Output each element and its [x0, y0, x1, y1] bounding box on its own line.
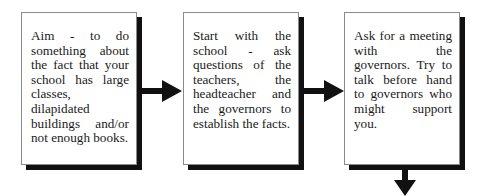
- arrow-right-icon: [302, 79, 346, 103]
- step-text-1: Aim - to do something about the fact tha…: [31, 29, 129, 146]
- arrow-down-icon: [393, 170, 417, 196]
- arrow-right-icon: [140, 79, 184, 103]
- step-box-2: Start with the school - ask questions of…: [183, 12, 299, 165]
- step-text-2: Start with the school - ask questions of…: [193, 29, 291, 131]
- step-box-1: Aim - to do something about the fact tha…: [21, 12, 137, 165]
- step-box-3: Ask for a meeting with the governors. Tr…: [344, 12, 460, 165]
- step-text-3: Ask for a meeting with the governors. Tr…: [354, 29, 452, 131]
